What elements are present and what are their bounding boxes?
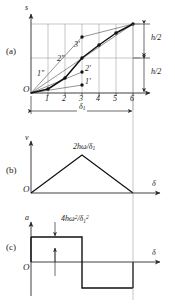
- peak-expression: 2hω/δ: [73, 142, 93, 151]
- panel-a-origin-label: O: [23, 85, 30, 94]
- panel-a-xtick-1: 1: [45, 95, 49, 103]
- delta-subscript: 1: [83, 105, 86, 111]
- panel-a-height-dimensions: [133, 24, 150, 92]
- cam-motion-diagram: (a) (b) (c) s O 1 2 3 4 5 6 1″ 2″ 3′ 2′ …: [0, 0, 175, 307]
- panel-a-curve-label-2-prime: 2′: [85, 65, 91, 73]
- panel-a-xtick-2: 2: [62, 95, 66, 103]
- amplitude-expression-main: 4hω: [61, 214, 75, 223]
- panel-c-axes: [31, 222, 160, 296]
- panel-c-x-axis-label: δ: [152, 249, 156, 257]
- peak-subscript: 1: [93, 145, 96, 151]
- panel-b-velocity-curve: [31, 155, 133, 193]
- panel-b-x-axis-label: δ: [152, 180, 156, 188]
- panel-tag-a: (a): [6, 47, 16, 56]
- amplitude-delta-exponent: 2: [86, 214, 89, 220]
- panel-b-origin-label: O: [23, 185, 30, 194]
- panel-a-dimension-lower-half-height: h/2: [151, 68, 161, 76]
- panel-c-amplitude-value-label: 4hω2/δ12: [61, 215, 89, 224]
- panel-c-y-axis-label: a: [25, 214, 29, 222]
- panel-a-curve-label-1-double-prime: 1″: [37, 70, 44, 78]
- panel-a-xtick-6: 6: [130, 95, 134, 103]
- panel-a-xtick-5: 5: [113, 95, 117, 103]
- panel-b-axes: [31, 141, 160, 193]
- panel-a-curve-label-2-double-prime: 2″: [57, 55, 64, 63]
- panel-b-y-axis-label: v: [25, 134, 29, 142]
- panel-a-dimension-upper-half-height: h/2: [151, 34, 161, 42]
- panel-a-xtick-4: 4: [96, 95, 100, 103]
- panel-a-curve-label-1-prime: 1′: [85, 78, 91, 86]
- panel-c-origin-label: O: [23, 263, 30, 272]
- panel-a-y-axis-label: s: [25, 4, 28, 12]
- panel-c-acceleration-curve: [31, 237, 133, 288]
- panel-a-curve-label-3-prime: 3′: [74, 41, 80, 49]
- panel-a-dimension-delta1: δ1: [77, 103, 87, 112]
- panel-b-peak-value-label: 2hω/δ1: [73, 143, 95, 152]
- figure-vector-graphics: [0, 0, 175, 307]
- panel-tag-c: (c): [6, 243, 16, 252]
- panel-tag-b: (b): [6, 166, 17, 175]
